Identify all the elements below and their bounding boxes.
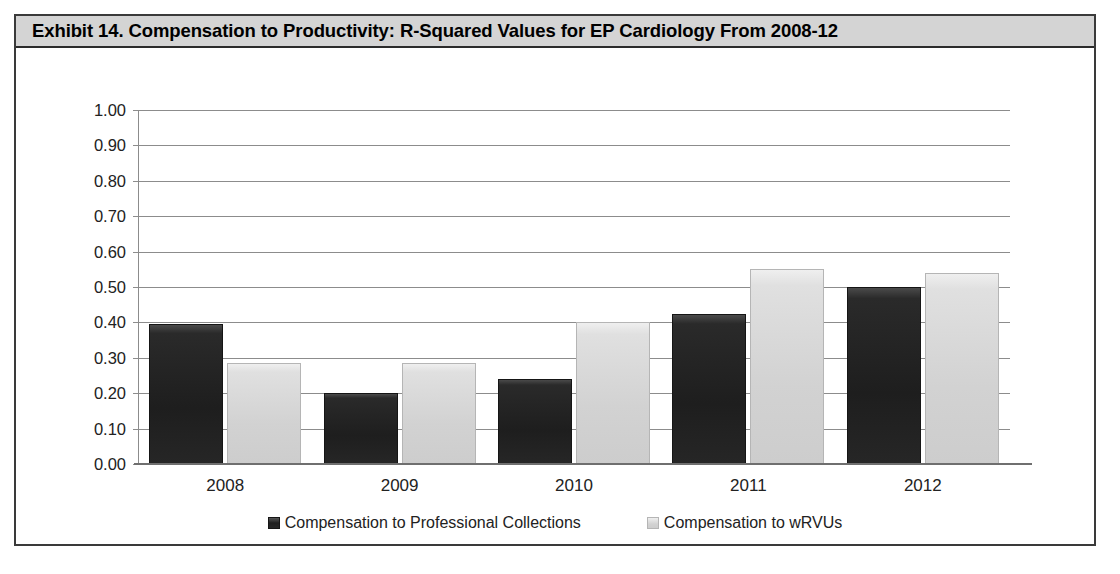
bar-group	[487, 110, 661, 464]
legend-swatch-icon	[647, 517, 659, 529]
x-axis-label-2008: 2008	[206, 476, 244, 496]
bar-2011-series2	[750, 269, 824, 464]
legend-label: Compensation to wRVUs	[664, 514, 842, 532]
bar-group	[661, 110, 835, 464]
x-axis-label-2012: 2012	[904, 476, 942, 496]
y-axis-tick-label: 0.50	[94, 278, 126, 297]
legend-label: Compensation to Professional Collections	[285, 514, 581, 532]
chart-area: 1.000.900.800.700.600.500.400.300.200.10…	[16, 48, 1094, 544]
y-axis-tick-label: 1.00	[94, 101, 126, 120]
exhibit-frame: Exhibit 14. Compensation to Productivity…	[14, 14, 1096, 546]
y-axis-tick-label: 0.70	[94, 207, 126, 226]
bar-series-container	[138, 110, 1010, 464]
y-axis-tick-label: 0.00	[94, 455, 126, 474]
page-title: Exhibit 14. Compensation to Productivity…	[16, 20, 838, 42]
bar-2012-series2	[925, 273, 999, 464]
bar-2012-series1	[847, 287, 921, 464]
y-axis-tick-label: 0.90	[94, 136, 126, 155]
y-axis-tick-label: 0.30	[94, 348, 126, 367]
x-axis-label-2010: 2010	[555, 476, 593, 496]
exhibit-title-banner: Exhibit 14. Compensation to Productivity…	[16, 16, 1094, 48]
x-axis-line	[134, 463, 1032, 465]
legend-swatch-icon	[268, 517, 280, 529]
bar-group	[312, 110, 486, 464]
bar-2009-series2	[402, 363, 476, 464]
bar-2011-series1	[672, 314, 746, 464]
y-axis-tick-label: 0.80	[94, 171, 126, 190]
plot-area: 1.000.900.800.700.600.500.400.300.200.10…	[138, 110, 1010, 464]
x-axis-label-2011: 2011	[730, 476, 767, 496]
legend-entry-1[interactable]: Compensation to Professional Collections	[268, 514, 581, 532]
y-axis-tick-label: 0.20	[94, 384, 126, 403]
x-axis-labels: 20082009201020112012	[138, 476, 1010, 506]
y-axis-tick-label: 0.10	[94, 419, 126, 438]
bar-2009-series1	[324, 393, 398, 464]
legend-entry-2[interactable]: Compensation to wRVUs	[647, 514, 842, 532]
bar-2008-series2	[227, 363, 301, 464]
bar-group	[138, 110, 312, 464]
x-axis-label-2009: 2009	[381, 476, 419, 496]
y-axis-tick-label: 0.40	[94, 313, 126, 332]
bar-2010-series1	[498, 379, 572, 464]
bar-2008-series1	[149, 324, 223, 464]
chart-legend: Compensation to Professional Collections…	[16, 514, 1094, 532]
bar-2010-series2	[576, 322, 650, 464]
y-axis-tick-label: 0.60	[94, 242, 126, 261]
bar-group	[836, 110, 1010, 464]
